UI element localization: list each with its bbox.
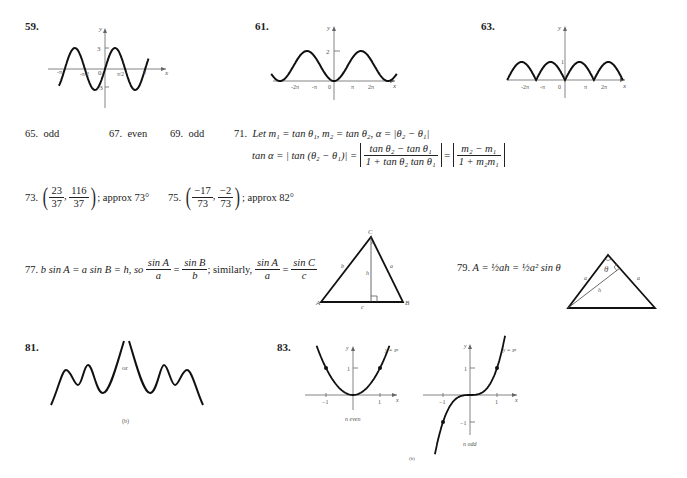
even-y-label: y <box>345 345 349 351</box>
caption-83: (b) <box>409 456 415 461</box>
even-curve-label: y = xⁿ <box>384 347 398 353</box>
even-point-1 <box>378 366 382 370</box>
odd-curve-label: y = xⁿ <box>502 347 516 353</box>
odd-point-1 <box>495 366 499 370</box>
even-tick-xm1: −1 <box>322 399 328 405</box>
even-point-neg1 <box>324 366 328 370</box>
graph-83: y x 1 −1 1 y = xⁿ n even y x 1 −1 −1 1 y… <box>0 0 687 478</box>
odd-y-label: y <box>463 343 467 349</box>
odd-x-label: x <box>514 397 518 403</box>
even-x-label: x <box>395 397 399 403</box>
even-tick-y1: 1 <box>347 366 350 372</box>
odd-point-neg1 <box>441 420 445 424</box>
odd-tick-y1: 1 <box>464 366 467 372</box>
even-caption: n even <box>345 416 361 422</box>
odd-tick-x1: 1 <box>495 399 498 405</box>
odd-caption: n odd <box>463 441 478 447</box>
odd-tick-xm1: −1 <box>439 399 445 405</box>
even-tick-x1: 1 <box>378 399 381 405</box>
odd-tick-ym1: −1 <box>460 420 466 426</box>
